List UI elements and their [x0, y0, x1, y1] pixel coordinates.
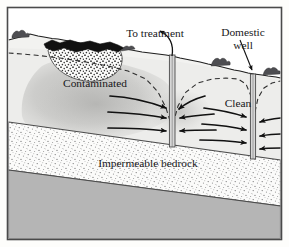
label-clean: Clean [225, 97, 252, 109]
label-domestic-well-line1: Domestic [221, 26, 265, 38]
figure-root: To treatment Domestic well Contaminated … [0, 0, 289, 247]
extraction-well[interactable] [169, 55, 175, 147]
domestic-well[interactable] [250, 74, 255, 159]
label-domestic-well-line2: well [233, 39, 253, 51]
cross-section-diagram: To treatment Domestic well Contaminated … [0, 0, 289, 247]
label-impermeable-bedrock: Impermeable bedrock [98, 157, 198, 169]
label-contaminated: Contaminated [63, 77, 127, 89]
label-to-treatment: To treatment [126, 27, 185, 39]
